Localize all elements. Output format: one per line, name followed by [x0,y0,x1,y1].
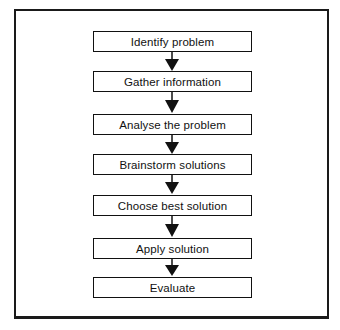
step-identify-problem: Identify problem [93,31,252,52]
arrow-down-icon [162,259,182,277]
step-apply-solution: Apply solution [93,238,252,259]
step-gather-information: Gather information [93,71,252,92]
arrow-down-icon [162,175,182,195]
step-brainstorm-solutions: Brainstorm solutions [93,154,252,175]
step-label: Gather information [124,76,221,88]
step-label: Brainstorm solutions [119,159,225,171]
step-choose-best-solution: Choose best solution [93,195,252,216]
step-label: Analyse the problem [119,119,226,131]
step-label: Choose best solution [118,200,227,212]
step-label: Apply solution [136,243,209,255]
step-evaluate: Evaluate [93,277,252,298]
arrow-down-icon [162,216,182,238]
step-label: Evaluate [150,282,196,294]
step-label: Identify problem [131,36,214,48]
arrow-down-icon [162,92,182,114]
arrow-down-icon [162,52,182,72]
step-analyse-problem: Analyse the problem [93,114,252,135]
arrow-down-icon [162,135,182,155]
